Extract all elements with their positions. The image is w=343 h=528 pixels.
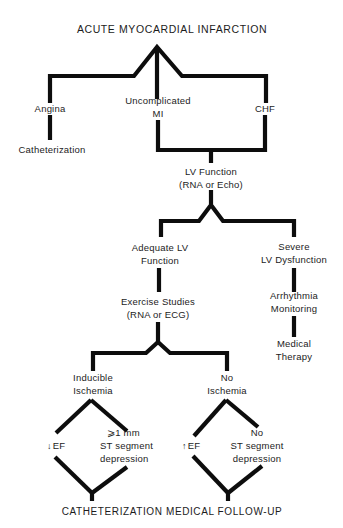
exercise-line1: Exercise Studies	[121, 295, 195, 308]
no-ischemia-line1: No	[207, 371, 247, 384]
outcomes-label: CATHETERIZATION MEDICAL FOLLOW-UP	[62, 505, 283, 518]
decreased-ef-text: EF	[53, 440, 66, 451]
exercise-line2: (RNA or ECG)	[121, 308, 195, 321]
st-depression-line2: ST segment	[100, 439, 153, 452]
decreased-ef-label: ↓EF	[47, 439, 65, 453]
no-st-depression-line2: ST segment	[230, 439, 283, 452]
noisch-left-lower	[193, 456, 228, 493]
up-arrow-icon: ↑	[182, 441, 187, 451]
diagram-title: ACUTE MYOCARDIAL INFARCTION	[77, 23, 267, 36]
catheterization-label: Catheterization	[19, 143, 86, 156]
no-ischemia-line2: Ischemia	[207, 384, 247, 397]
medical-therapy-line1: Medical	[276, 337, 312, 350]
adequate-lv-label: Adequate LV Function	[132, 241, 188, 267]
flowchart-diagram: ACUTE MYOCARDIAL INFARCTION Angina Cathe…	[0, 0, 343, 528]
severe-lv-label: Severe LV Dysfunction	[261, 240, 327, 266]
inducible-ischemia-label: Inducible Ischemia	[73, 371, 113, 397]
no-st-depression-line1: No	[230, 426, 283, 439]
increased-ef-label: ↑EF	[182, 439, 200, 453]
st-depression-line1: ⩾1 mm	[100, 426, 153, 439]
no-ischemia-label: No Ischemia	[207, 371, 247, 397]
inducible-line2: Ischemia	[73, 384, 113, 397]
chf-label: CHF	[255, 102, 275, 115]
lv-split-bracket	[161, 205, 294, 237]
mi-chf-merge-bracket	[158, 115, 265, 150]
uncomplicated-label: Uncomplicated MI	[125, 94, 190, 120]
uncomplicated-line2: MI	[125, 107, 190, 120]
inducible-right-lower	[92, 467, 127, 493]
medical-therapy-line2: Therapy	[276, 350, 312, 363]
down-arrow-icon: ↓	[47, 441, 52, 451]
exercise-split-bracket	[93, 342, 227, 371]
st-depression-label: ⩾1 mm ST segment depression	[100, 426, 153, 465]
angina-label: Angina	[35, 102, 66, 115]
inducible-left-lower	[55, 457, 92, 493]
uncomplicated-line1: Uncomplicated	[125, 94, 190, 107]
lv-function-line2: (RNA or Echo)	[179, 178, 243, 191]
noisch-right-lower	[228, 466, 262, 493]
no-st-depression-line3: depression	[230, 452, 283, 465]
inducible-left-upper	[56, 400, 91, 433]
arrhythmia-label: Arrhythmia Monitoring	[270, 289, 318, 315]
lv-function-line1: LV Function	[179, 165, 243, 178]
exercise-studies-label: Exercise Studies (RNA or ECG)	[121, 295, 195, 321]
lv-function-label: LV Function (RNA or Echo)	[179, 165, 243, 191]
noisch-right-upper	[226, 400, 258, 427]
increased-ef-text: EF	[188, 440, 201, 451]
arrhythmia-line2: Monitoring	[270, 302, 318, 315]
adequate-line1: Adequate LV	[132, 241, 188, 254]
adequate-line2: Function	[132, 254, 188, 267]
no-st-depression-label: No ST segment depression	[230, 426, 283, 465]
severe-line2: LV Dysfunction	[261, 253, 327, 266]
inducible-line1: Inducible	[73, 371, 113, 384]
noisch-left-upper	[194, 400, 226, 436]
st-depression-line3: depression	[100, 452, 153, 465]
arrhythmia-line1: Arrhythmia	[270, 289, 318, 302]
severe-line1: Severe	[261, 240, 327, 253]
medical-therapy-label: Medical Therapy	[276, 337, 312, 363]
